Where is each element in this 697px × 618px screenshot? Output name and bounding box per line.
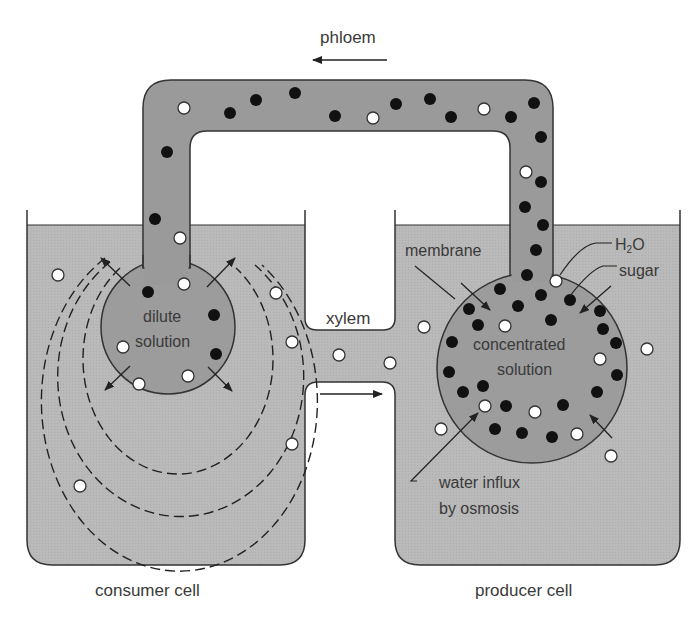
water-influx-label-line2: by osmosis (439, 500, 519, 517)
membrane-label: membrane (405, 242, 482, 259)
xylem-label: xylem (326, 309, 370, 328)
dilute-label-line1: dilute (143, 308, 181, 325)
sugar-label: sugar (619, 262, 660, 279)
consumer-cell-label: consumer cell (95, 581, 200, 600)
concentrated-label-line2: solution (497, 361, 552, 378)
water-influx-label-line1: water influx (438, 474, 520, 491)
producer-cell-label: producer cell (475, 581, 572, 600)
phloem-label: phloem (320, 28, 376, 47)
osmosis-diagram: phloem xylem (0, 0, 697, 618)
concentrated-label-line1: concentrated (473, 336, 566, 353)
dilute-label-line2: solution (135, 333, 190, 350)
